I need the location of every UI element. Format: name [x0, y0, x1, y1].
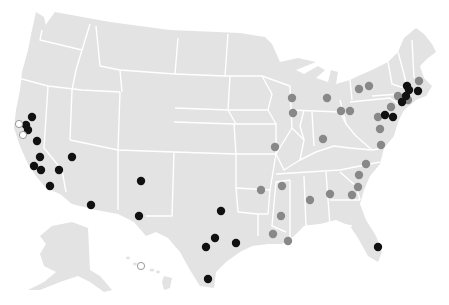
map-marker-black[interactable] — [232, 239, 240, 247]
map-marker-black[interactable] — [46, 182, 54, 190]
map-marker-gray[interactable] — [284, 237, 292, 245]
map-marker-gray[interactable] — [355, 171, 363, 179]
map-marker-gray[interactable] — [323, 94, 331, 102]
map-marker-gray[interactable] — [277, 212, 285, 220]
map-marker-gray[interactable] — [337, 107, 345, 115]
map-marker-gray[interactable] — [306, 196, 314, 204]
map-marker-gray[interactable] — [354, 183, 362, 191]
map-marker-gray[interactable] — [319, 135, 327, 143]
us-map — [0, 0, 449, 305]
map-marker-black[interactable] — [68, 153, 76, 161]
map-marker-black[interactable] — [137, 177, 145, 185]
map-marker-black[interactable] — [374, 243, 382, 251]
map-marker-gray[interactable] — [271, 143, 279, 151]
map-marker-gray[interactable] — [387, 103, 395, 111]
map-marker-black[interactable] — [202, 243, 210, 251]
map-marker-black[interactable] — [36, 153, 44, 161]
map-marker-gray[interactable] — [346, 107, 354, 115]
map-marker-gray[interactable] — [326, 190, 334, 198]
map-marker-gray[interactable] — [362, 160, 370, 168]
map-marker-gray[interactable] — [278, 182, 286, 190]
map-marker-black[interactable] — [135, 212, 143, 220]
map-marker-gray[interactable] — [269, 230, 277, 238]
map-marker-hollow[interactable] — [15, 120, 22, 127]
map-marker-hollow[interactable] — [19, 131, 26, 138]
map-marker-gray[interactable] — [348, 191, 356, 199]
map-marker-black[interactable] — [87, 201, 95, 209]
map-marker-black[interactable] — [402, 92, 410, 100]
map-marker-black[interactable] — [381, 111, 389, 119]
map-marker-black[interactable] — [217, 207, 225, 215]
map-marker-black[interactable] — [37, 166, 45, 174]
map-marker-black[interactable] — [389, 113, 397, 121]
map-marker-gray[interactable] — [376, 125, 384, 133]
marker-layer — [0, 0, 449, 305]
map-marker-black[interactable] — [211, 234, 219, 242]
map-marker-black[interactable] — [28, 113, 36, 121]
map-marker-black[interactable] — [204, 275, 212, 283]
map-marker-black[interactable] — [33, 137, 41, 145]
map-marker-gray[interactable] — [415, 77, 423, 85]
map-marker-black[interactable] — [55, 166, 63, 174]
map-marker-gray[interactable] — [289, 109, 297, 117]
map-marker-black[interactable] — [414, 87, 422, 95]
map-marker-hollow[interactable] — [137, 262, 144, 269]
map-marker-gray[interactable] — [365, 82, 373, 90]
map-marker-gray[interactable] — [288, 94, 296, 102]
map-marker-gray[interactable] — [257, 186, 265, 194]
map-marker-gray[interactable] — [355, 85, 363, 93]
map-marker-gray[interactable] — [377, 141, 385, 149]
